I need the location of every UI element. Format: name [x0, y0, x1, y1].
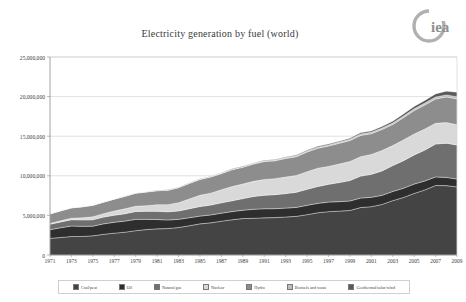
x-axis-label: 1981 [152, 258, 163, 263]
legend-item-3[interactable]: Nuclear [203, 284, 224, 290]
legend-swatch-icon [119, 284, 125, 290]
legend-item-4[interactable]: Hydro [246, 284, 265, 290]
y-axis-label: 25,000,000 [20, 55, 45, 61]
x-axis-label: 2001 [366, 258, 377, 263]
x-axis-label: 1983 [173, 258, 184, 263]
legend-item-2[interactable]: Natural gas [154, 284, 181, 290]
x-axis-label: 1985 [195, 258, 206, 263]
legend-item-label: Nuclear [211, 285, 224, 290]
x-axis-label: 1977 [109, 258, 120, 263]
y-axis-label: 5,000,000 [23, 213, 46, 219]
legend-item-6[interactable]: Geothermal/solar/wind [348, 284, 395, 290]
x-axis-label: 2007 [430, 258, 441, 263]
x-axis-label: 1975 [87, 258, 98, 263]
x-axis-label: 1987 [216, 258, 227, 263]
legend-swatch-icon [73, 284, 79, 290]
legend-item-0[interactable]: Coal/peat [73, 284, 97, 290]
legend-item-label: Coal/peat [81, 285, 97, 290]
legend-item-1[interactable]: Oil [119, 284, 132, 290]
legend-swatch-icon [246, 284, 252, 290]
x-axis-label: 1999 [345, 258, 356, 263]
legend-item-label: Oil [127, 285, 132, 290]
x-axis-label: 1995 [302, 258, 313, 263]
x-axis-label: 1993 [280, 258, 291, 263]
page-title: Electricity generation by fuel (world) [0, 28, 440, 39]
legend-item-label: Hydro [254, 285, 265, 290]
x-axis-label: 1971 [45, 258, 56, 263]
y-axis-label: 15,000,000 [20, 134, 45, 140]
electricity-generation-area-chart: 05,000,00010,000,00015,000,00020,000,000… [0, 48, 466, 263]
x-axis-label: 2009 [452, 258, 463, 263]
iea-logo: iea [402, 6, 460, 46]
x-axis-label: 1991 [259, 258, 270, 263]
x-axis-label: 1973 [66, 258, 77, 263]
x-axis-label: 1979 [130, 258, 141, 263]
legend-swatch-icon [203, 284, 209, 290]
legend-swatch-icon [348, 284, 354, 290]
chart-legend: Coal/peatOilNatural gasNuclearHydroBiofu… [58, 280, 410, 294]
legend-item-5[interactable]: Biofuels and waste [287, 284, 327, 290]
y-axis-label: 10,000,000 [20, 173, 45, 179]
legend-item-label: Biofuels and waste [295, 285, 327, 290]
legend-swatch-icon [287, 284, 293, 290]
legend-item-label: Natural gas [162, 285, 181, 290]
x-axis-label: 1989 [237, 258, 248, 263]
legend-item-label: Geothermal/solar/wind [356, 285, 395, 290]
x-axis-label: 2005 [409, 258, 420, 263]
legend-swatch-icon [154, 284, 160, 290]
y-axis-label: 20,000,000 [20, 94, 45, 100]
x-axis-label: 1997 [323, 258, 334, 263]
x-axis-label: 2003 [387, 258, 398, 263]
